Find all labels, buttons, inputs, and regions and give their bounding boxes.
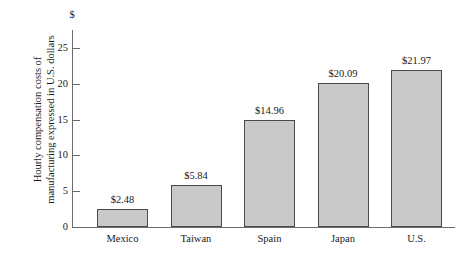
- y-tick-mark: [73, 155, 80, 156]
- x-category-label: Japan: [306, 234, 381, 245]
- bar: [391, 70, 442, 227]
- y-tick-mark: [73, 191, 80, 192]
- y-tick-mark: [73, 48, 80, 49]
- x-axis-line: [72, 227, 455, 228]
- bar-value-label: $14.96: [236, 106, 303, 117]
- y-tick-label: 20: [42, 79, 68, 90]
- bar-value-label: $5.84: [163, 171, 230, 182]
- y-tick-label: 10: [42, 150, 68, 161]
- bar: [171, 185, 222, 227]
- bar-value-label: $2.48: [89, 195, 156, 206]
- bar-value-label: $20.09: [310, 69, 377, 80]
- x-category-label: U.S.: [379, 234, 454, 245]
- y-tick-mark: [73, 120, 80, 121]
- x-category-label: Spain: [232, 234, 307, 245]
- x-category-label: Taiwan: [159, 234, 234, 245]
- y-tick-label: 25: [42, 43, 68, 54]
- bar-chart: Hourly compensation costs of manufacturi…: [0, 0, 471, 265]
- bar: [244, 120, 295, 227]
- bar-value-label: $21.97: [383, 56, 450, 67]
- y-tick-label: 15: [42, 115, 68, 126]
- y-tick-label: 5: [42, 186, 68, 197]
- currency-marker: $: [63, 10, 81, 21]
- y-tick-label: 0: [42, 222, 68, 233]
- x-category-label: Mexico: [85, 234, 160, 245]
- y-axis-line: [72, 30, 73, 228]
- y-tick-mark: [73, 84, 80, 85]
- bar: [97, 209, 148, 227]
- bar: [318, 83, 369, 227]
